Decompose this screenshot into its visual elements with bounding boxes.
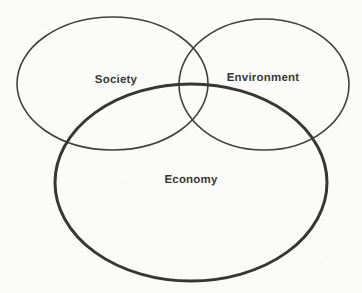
venn-diagram: Society Environment Economy	[0, 0, 362, 293]
society-label: Society	[95, 75, 137, 87]
environment-label: Environment	[227, 73, 300, 85]
venn-diagram-canvas	[0, 0, 362, 293]
economy-label: Economy	[164, 175, 217, 187]
